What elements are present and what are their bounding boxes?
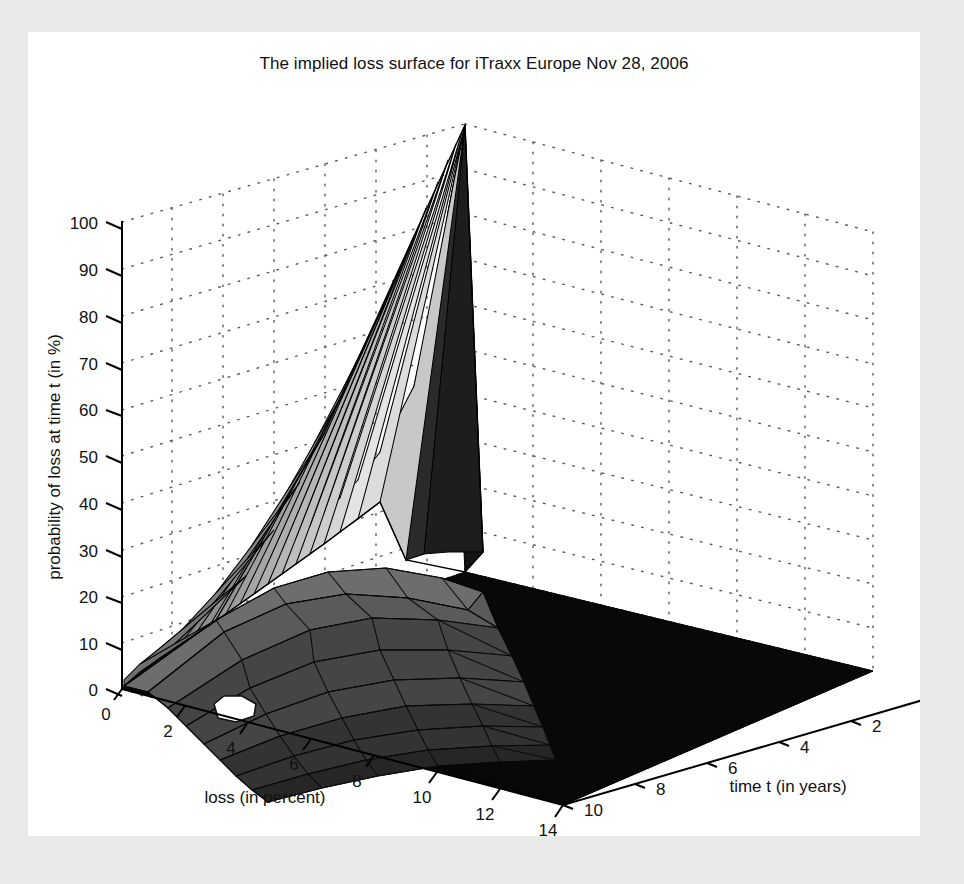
x-tick-14: 14 — [539, 821, 558, 836]
z-tick-90: 90 — [79, 261, 98, 280]
z-tick-40: 40 — [79, 495, 98, 514]
x-tick-10: 10 — [413, 788, 432, 807]
y-tick-2: 2 — [872, 717, 881, 736]
z-tick-0: 0 — [89, 681, 98, 700]
plot-card: The implied loss surface for iTraxx Euro… — [28, 32, 920, 836]
z-tick-70: 70 — [79, 355, 98, 374]
z-axis-title: probability of loss at time t (in %) — [45, 334, 64, 580]
z-tick-30: 30 — [79, 542, 98, 561]
y-tick-10: 10 — [584, 801, 603, 820]
surface-plot: 100 90 80 70 60 50 40 30 20 10 0 0 2 4 6 — [28, 32, 920, 836]
z-tick-80: 80 — [79, 308, 98, 327]
z-tick-60: 60 — [79, 401, 98, 420]
z-axis-ticks — [106, 222, 122, 696]
z-axis-tick-labels: 100 90 80 70 60 50 40 30 20 10 0 — [70, 214, 98, 700]
z-tick-10: 10 — [79, 635, 98, 654]
x-tick-4: 4 — [226, 739, 235, 758]
y-tick-4: 4 — [800, 738, 809, 757]
x-tick-8: 8 — [352, 772, 361, 791]
x-axis-title: loss (in percent) — [205, 788, 326, 807]
x-tick-0: 0 — [101, 705, 110, 724]
y-tick-8: 8 — [656, 780, 665, 799]
x-tick-6: 6 — [289, 755, 298, 774]
z-tick-20: 20 — [79, 588, 98, 607]
x-tick-2: 2 — [163, 722, 172, 741]
x-tick-12: 12 — [476, 805, 495, 824]
z-tick-50: 50 — [79, 448, 98, 467]
y-tick-6: 6 — [728, 759, 737, 778]
figure-page: The implied loss surface for iTraxx Euro… — [0, 0, 964, 884]
z-tick-100: 100 — [70, 214, 98, 233]
surface-mesh — [124, 125, 556, 802]
y-axis-title: time t (in years) — [729, 777, 846, 796]
